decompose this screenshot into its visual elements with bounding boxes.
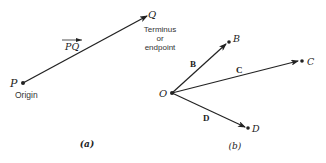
vector-pq-label: PQ xyxy=(64,41,79,52)
point-b-label: B xyxy=(232,33,240,44)
panel-b: O B C D B C D (b) xyxy=(159,33,315,151)
point-o-dot xyxy=(170,91,174,95)
vector-b-name: B xyxy=(190,59,196,69)
point-c-label: C xyxy=(307,56,315,67)
point-p-label: P xyxy=(9,77,18,90)
point-d-dot xyxy=(246,126,250,130)
origin-label: Origin xyxy=(15,90,38,100)
vector-c-name: C xyxy=(236,65,243,75)
caption-a: (a) xyxy=(80,139,94,149)
point-c-dot xyxy=(300,59,304,63)
vector-d-name: D xyxy=(203,113,210,123)
terminus-label-line3: endpoint xyxy=(145,43,176,52)
point-p-dot xyxy=(21,81,25,85)
point-q-label: Q xyxy=(148,9,156,20)
point-b-dot xyxy=(227,40,231,44)
vector-pq-arrow xyxy=(23,16,147,83)
point-d-label: D xyxy=(251,123,260,134)
point-o-label: O xyxy=(159,88,167,99)
terminus-label-line2: or xyxy=(156,34,163,43)
diagram-canvas: P Origin Q Terminus or endpoint PQ (a) O… xyxy=(0,0,326,163)
caption-b: (b) xyxy=(229,141,242,151)
panel-a: P Origin Q Terminus or endpoint PQ (a) xyxy=(9,9,176,149)
vector-diagram-figure: P Origin Q Terminus or endpoint PQ (a) O… xyxy=(0,0,326,163)
terminus-label-line1: Terminus xyxy=(144,25,176,34)
